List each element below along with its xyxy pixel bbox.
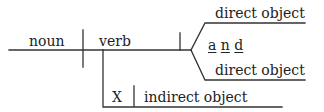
conjunction-letter: d <box>234 37 243 53</box>
preposition-placeholder-label: X <box>112 90 122 104</box>
direct-object-2-label: direct object <box>215 63 305 77</box>
predicate-label: verb <box>99 34 131 48</box>
conjunction-letter: n <box>221 37 230 53</box>
subject-label: noun <box>29 34 64 48</box>
conjunction-letter: a <box>208 37 216 53</box>
indirect-object-label: indirect object <box>144 90 247 104</box>
conjunction-label: a n d <box>208 38 243 52</box>
direct-object-1-label: direct object <box>215 6 305 20</box>
